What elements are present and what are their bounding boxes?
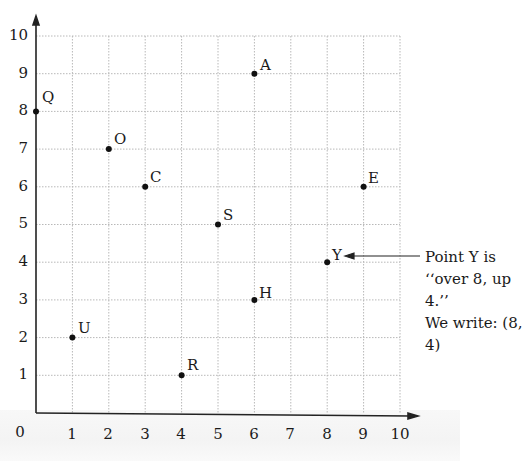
y-tick-2: 2 (2, 330, 28, 345)
label-Y: Y (332, 248, 342, 263)
annotation-text: Point Y is ‘‘over 8, up 4.’’ We write: (… (425, 246, 531, 356)
x-axis-arrow-icon (408, 413, 418, 419)
x-tick-8: 8 (315, 427, 339, 442)
point-A (251, 71, 257, 77)
label-O: O (114, 132, 126, 147)
label-E: E (368, 171, 379, 186)
x-tick-9: 9 (351, 427, 375, 442)
x-tick-2: 2 (96, 427, 120, 442)
annotation-line-2: ‘‘over 8, up 4.’’ (425, 268, 531, 312)
point-H (251, 297, 257, 303)
annotation-line-1: Point Y is (425, 246, 531, 268)
point-C (142, 184, 148, 190)
label-Q: Q (42, 90, 54, 105)
point-E (361, 184, 367, 190)
x-tick-5: 5 (206, 427, 230, 442)
x-tick-3: 3 (133, 427, 157, 442)
label-C: C (150, 170, 161, 185)
x-tick-4: 4 (169, 427, 193, 442)
x-tick-7: 7 (278, 427, 302, 442)
label-S: S (223, 208, 233, 223)
point-R (179, 372, 185, 378)
arrow-head-icon (345, 253, 354, 259)
point-Y (324, 259, 330, 265)
point-O (106, 146, 112, 152)
y-tick-4: 4 (2, 254, 28, 269)
y-tick-6: 6 (2, 179, 28, 194)
label-U: U (78, 321, 91, 336)
label-A: A (260, 58, 271, 73)
y-tick-5: 5 (2, 216, 28, 231)
y-tick-10: 10 (2, 28, 28, 43)
point-U (69, 335, 75, 341)
x-tick-6: 6 (242, 427, 266, 442)
label-R: R (187, 358, 198, 373)
x-axis (36, 413, 410, 416)
point-Q (33, 108, 39, 114)
origin-label: 0 (8, 425, 32, 440)
x-tick-10: 10 (388, 427, 412, 442)
y-tick-3: 3 (2, 292, 28, 307)
y-tick-7: 7 (2, 141, 28, 156)
point-S (215, 222, 221, 228)
y-tick-8: 8 (2, 103, 28, 118)
x-tick-1: 1 (60, 427, 84, 442)
y-axis-arrow-icon (33, 16, 39, 25)
annotation-line-3: We write: (8, 4) (425, 312, 531, 356)
coordinate-plane-figure: 10 9 8 7 6 5 4 3 2 1 0 1 2 3 4 5 6 7 8 9… (0, 0, 531, 461)
label-H: H (259, 286, 272, 301)
y-tick-1: 1 (2, 367, 28, 382)
annotation-arrow (345, 253, 420, 259)
y-tick-9: 9 (2, 66, 28, 81)
